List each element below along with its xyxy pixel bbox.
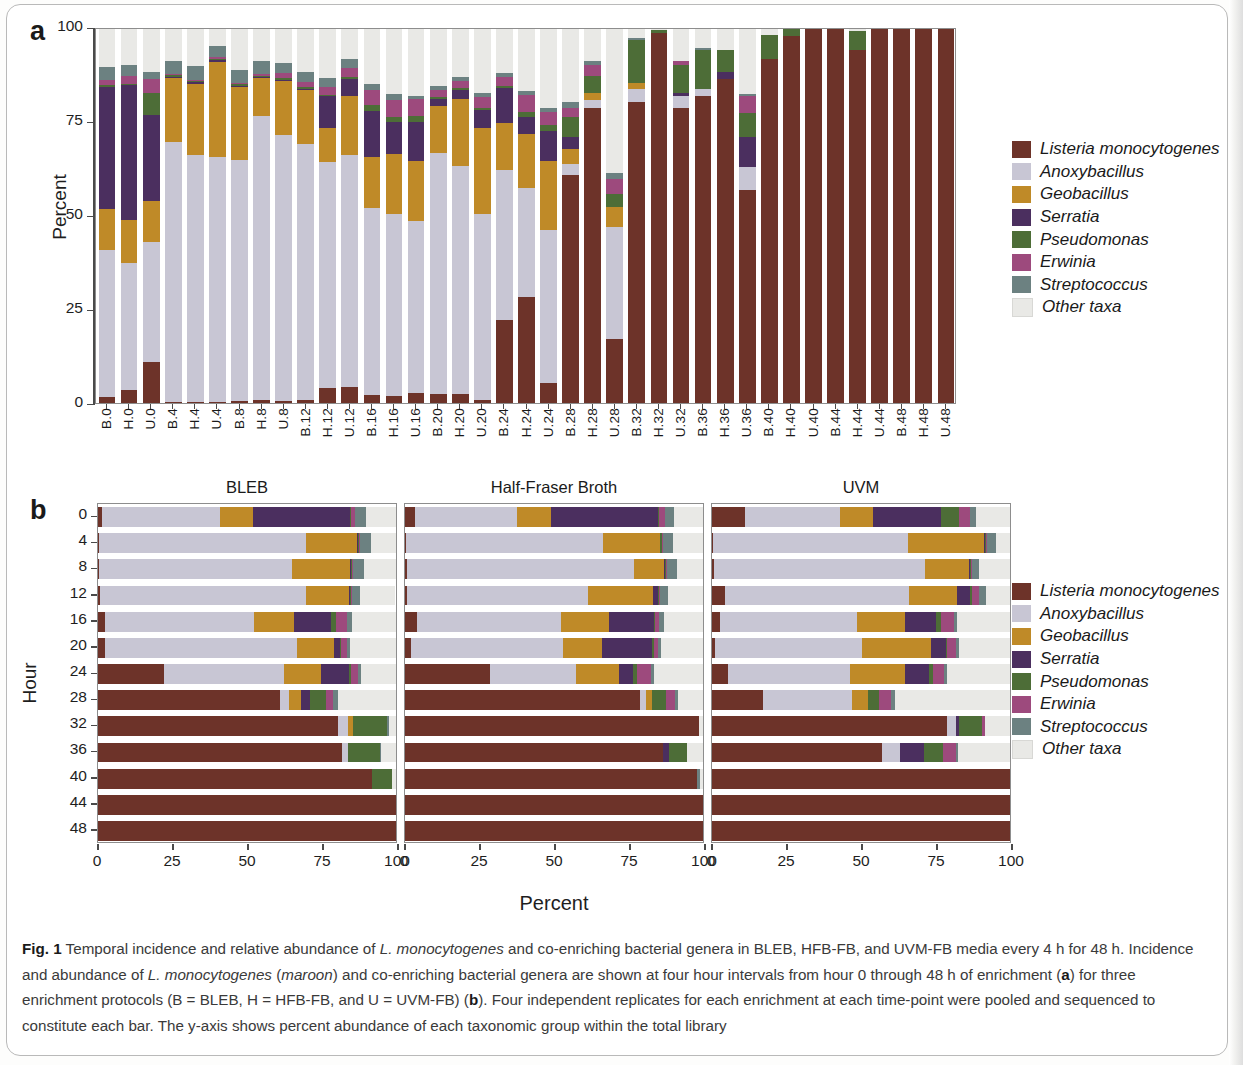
panel-a-x-tick — [393, 404, 394, 409]
panel-a-x-tick-label: B.36 — [695, 408, 710, 437]
panel-a-x-tick-label: U.4 — [209, 408, 224, 430]
panel-b-x-tick-label: 0 — [689, 852, 733, 870]
panel-b-legend-row: Streptococcus — [1012, 716, 1220, 739]
panel-a-x-tick — [901, 404, 902, 409]
panel-a-x-tick-label: U.8 — [276, 408, 291, 430]
panel-b-x-tick — [97, 844, 99, 850]
panel-a-x-tick-label: U.0 — [143, 408, 158, 430]
panel-b-bar-segment — [677, 559, 703, 579]
panel-a-bar-segment — [717, 72, 734, 79]
panel-b-bar — [405, 638, 703, 658]
panel-a-y-tick-label: 25 — [40, 299, 83, 317]
panel-b-bar-segment — [959, 716, 981, 736]
panel-a-y-tick-label: 75 — [40, 111, 83, 129]
caption-i3: maroon — [281, 966, 333, 983]
page-edge-shadow — [1229, 0, 1243, 1065]
panel-a-x-tick-label: B.12 — [298, 408, 313, 437]
panel-b-bar-segment — [667, 559, 677, 579]
panel-b-bar-segment — [326, 690, 333, 710]
panel-a-bar — [341, 29, 358, 403]
panel-b-bar-segment — [100, 586, 306, 606]
panel-a-bar-segment — [452, 166, 469, 394]
panel-a-bar-segment — [651, 33, 668, 403]
figure-caption: Fig. 1 Temporal incidence and relative a… — [22, 936, 1207, 1038]
panel-a-x-tick-label: H.24 — [519, 408, 534, 437]
figure-page: a Percent 0255075100 B.0H.0U.0B.4H.4U.4B… — [0, 0, 1243, 1065]
panel-a-bar-segment — [121, 29, 138, 65]
panel-b-bar-segment — [857, 612, 905, 632]
panel-b-bar-segment — [979, 559, 1010, 579]
panel-b-bar — [712, 664, 1010, 684]
panel-a-bar-segment — [430, 394, 447, 403]
panel-a-x-tick-label: B.44 — [828, 408, 843, 437]
panel-b-bar-segment — [868, 690, 878, 710]
panel-b-bar-segment — [405, 612, 417, 632]
panel-a-bar-segment — [562, 29, 579, 102]
panel-b-bar-segment — [943, 743, 956, 763]
panel-b-y-tick-label: 44 — [42, 793, 87, 811]
panel-b-legend-row: Geobacillus — [1012, 625, 1220, 648]
panel-b-bar — [98, 743, 396, 763]
panel-a-legend-swatch-geobacillus — [1012, 186, 1031, 203]
panel-a-x-tick-label: H.4 — [187, 408, 202, 430]
panel-b-bar-segment — [840, 507, 873, 527]
panel-b-bar-segment — [712, 716, 947, 736]
panel-a-bar-segment — [319, 162, 336, 388]
panel-a-legend-row: Listeria monocytogenes — [1012, 138, 1220, 161]
panel-b-bar-segment — [407, 586, 587, 606]
panel-b-bar — [98, 586, 396, 606]
panel-b-bar-segment — [687, 743, 703, 763]
panel-b-bar-segment — [405, 795, 703, 815]
panel-a-bar-segment — [143, 242, 160, 362]
panel-a-x-tick — [172, 404, 173, 409]
panel-a-bar-segment — [341, 59, 358, 68]
panel-a-x-tick — [879, 404, 880, 409]
panel-b-bar — [405, 769, 703, 789]
panel-b-bar-segment — [972, 559, 979, 579]
panel-a-x-tick-label: U.36 — [739, 408, 754, 437]
panel-a-bar-segment — [408, 161, 425, 221]
panel-a-bar-segment — [386, 100, 403, 117]
panel-a-x-tick-label: B.48 — [894, 408, 909, 437]
panel-b-legend-swatch-streptococcus — [1012, 718, 1031, 735]
panel-a-bar — [915, 29, 932, 403]
panel-a-x-tick — [128, 404, 129, 409]
panel-b-bar-segment — [947, 716, 957, 736]
panel-b-x-tick — [704, 844, 706, 850]
panel-a-bar — [938, 29, 955, 403]
panel-a-bar-segment — [452, 99, 469, 166]
panel-a-bar — [606, 29, 623, 403]
panel-a-bar-segment — [275, 81, 292, 135]
panel-a-bar-segment — [915, 29, 932, 403]
panel-a-bar-segment — [518, 134, 535, 188]
panel-b-x-tick — [1011, 844, 1013, 850]
panel-b-bar-segment — [720, 612, 857, 632]
panel-a-x-tick-label: B.20 — [430, 408, 445, 437]
caption-i2: L. monocytogenes — [148, 966, 272, 983]
panel-a-bar-segment — [209, 157, 226, 402]
panel-a-x-tick — [327, 404, 328, 409]
panel-b-bar-segment — [979, 586, 986, 606]
panel-a-bar-segment — [893, 29, 910, 403]
panel-a-bar-segment — [319, 87, 336, 94]
panel-b-bar-segment — [712, 743, 882, 763]
panel-a-bar — [209, 29, 226, 403]
panel-b-bar-segment — [105, 612, 254, 632]
panel-b-bar — [712, 795, 1010, 815]
panel-a-bar — [673, 29, 690, 403]
panel-b-bar-segment — [712, 586, 725, 606]
panel-a-bar-segment — [143, 115, 160, 201]
panel-a-bar-segment — [496, 88, 513, 124]
panel-b-x-tick-label: 25 — [764, 852, 808, 870]
panel-a-x-tick-label: H.48 — [916, 408, 931, 437]
panel-a-x-tick — [194, 404, 195, 409]
panel-b-bar-segment — [661, 638, 703, 658]
panel-b-legend: Listeria monocytogenesAnoxybacillusGeoba… — [1012, 580, 1220, 761]
panel-a-bar — [408, 29, 425, 403]
panel-a-bar — [430, 29, 447, 403]
panel-b-bar-segment — [280, 690, 289, 710]
panel-a-bar-segment — [231, 160, 248, 401]
panel-a-bar-segment — [717, 29, 734, 50]
panel-a-x-tick-label: H.32 — [651, 408, 666, 437]
panel-a-bar-segment — [341, 29, 358, 59]
